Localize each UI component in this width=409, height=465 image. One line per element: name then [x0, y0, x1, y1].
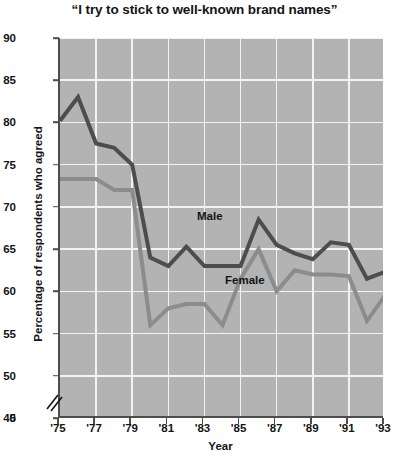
y-tick-label: 45 — [0, 412, 16, 424]
y-tick-label: 60 — [0, 285, 16, 297]
plot-area — [58, 38, 383, 418]
x-tick-mark — [57, 418, 59, 424]
x-tick-mark — [238, 418, 240, 424]
y-tick-mark — [53, 164, 59, 166]
chart-container: “I try to stick to well-known brand name… — [0, 0, 409, 465]
y-tick-label: 65 — [0, 243, 16, 255]
y-tick-label: 80 — [0, 116, 16, 128]
x-tick-mark — [274, 418, 276, 424]
y-axis-label: Percentage of respondents who agreed — [32, 104, 44, 364]
x-tick-mark — [202, 418, 204, 424]
y-tick-label: 90 — [0, 32, 16, 44]
series-line-female — [60, 179, 383, 325]
series-label-male: Male — [197, 210, 223, 222]
x-tick-mark — [93, 418, 95, 424]
x-tick-mark — [166, 418, 168, 424]
x-tick-mark — [346, 418, 348, 424]
data-lines — [60, 38, 383, 418]
y-tick-mark — [53, 206, 59, 208]
y-tick-label: 50 — [0, 370, 16, 382]
y-tick-label: 55 — [0, 328, 16, 340]
x-tick-mark — [129, 418, 131, 424]
axis-break-icon — [44, 392, 64, 414]
y-tick-label: 85 — [0, 74, 16, 86]
y-tick-mark — [53, 122, 59, 124]
y-tick-label: 75 — [0, 159, 16, 171]
x-axis-label: Year — [58, 440, 383, 452]
y-tick-mark — [53, 375, 59, 377]
y-tick-mark — [53, 333, 59, 335]
y-tick-mark — [53, 291, 59, 293]
y-tick-mark — [53, 248, 59, 250]
y-tick-mark — [53, 37, 59, 39]
y-tick-label: 70 — [0, 201, 16, 213]
x-tick-mark — [382, 418, 384, 424]
chart-title: “I try to stick to well-known brand name… — [0, 2, 409, 17]
x-tick-mark — [310, 418, 312, 424]
series-label-female: Female — [225, 274, 265, 286]
y-tick-mark — [53, 79, 59, 81]
gridline-horizontal — [60, 417, 383, 418]
